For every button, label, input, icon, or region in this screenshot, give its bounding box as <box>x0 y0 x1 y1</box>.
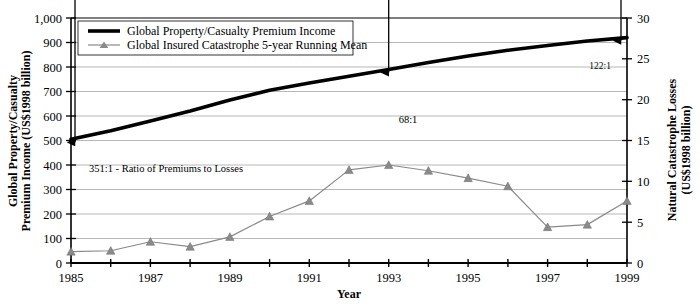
x-tick-label: 1999 <box>615 271 640 285</box>
x-tick-label: 1991 <box>297 271 322 285</box>
dual-axis-line-chart: 01002003004005006007008009001,000 051015… <box>0 0 700 305</box>
left-axis-title-line2: Premium Income (US$1998 billion) <box>19 51 33 232</box>
x-tick-label: 1985 <box>59 271 84 285</box>
right-tick-label: 20 <box>637 93 650 107</box>
left-tick-label: 700 <box>43 85 62 99</box>
x-tick-label: 1995 <box>456 271 481 285</box>
right-tick-label: 5 <box>637 216 643 230</box>
right-tick-label: 15 <box>637 134 650 148</box>
left-tick-label: 600 <box>43 110 62 124</box>
legend-label-premium: Global Property/Casualty Premium Income <box>127 24 335 38</box>
left-tick-label: 300 <box>43 183 62 197</box>
right-tick-label: 10 <box>637 175 650 189</box>
left-tick-label: 0 <box>56 257 62 271</box>
right-tick-label: 25 <box>637 52 650 66</box>
legend-label-catastrophe: Global Insured Catastrophe 5-year Runnin… <box>127 38 367 52</box>
x-tick-label: 1989 <box>217 271 242 285</box>
annotation-label-ratio-1993: 68:1 <box>399 114 418 125</box>
x-axis-title: Year <box>337 287 362 301</box>
left-tick-label: 400 <box>43 159 62 173</box>
annotation-label-ratio-1999: 122:1 <box>589 61 611 71</box>
right-tick-label: 0 <box>637 257 643 271</box>
left-tick-label: 800 <box>43 61 62 75</box>
left-tick-label: 500 <box>43 134 62 148</box>
x-tick-label: 1997 <box>535 271 560 285</box>
right-axis-title-line2: (US$1998 billion) <box>679 105 693 194</box>
annotation-label-ratio-1985: 351:1 - Ratio of Premiums to Losses <box>89 163 243 174</box>
left-tick-label: 900 <box>43 36 62 50</box>
left-tick-label: 1,000 <box>34 12 62 26</box>
chart-legend: Global Property/Casualty Premium Income … <box>78 21 367 55</box>
x-tick-label: 1987 <box>138 271 163 285</box>
x-tick-label: 1993 <box>376 271 401 285</box>
left-tick-label: 200 <box>43 208 62 222</box>
chart-container: 01002003004005006007008009001,000 051015… <box>0 0 700 305</box>
right-tick-label: 30 <box>637 12 650 26</box>
left-axis-title-line1: Global Property/Casualty <box>6 75 20 207</box>
left-tick-label: 100 <box>43 232 62 246</box>
right-axis-title-line1: Natural Catastrophe Losses <box>665 78 679 221</box>
